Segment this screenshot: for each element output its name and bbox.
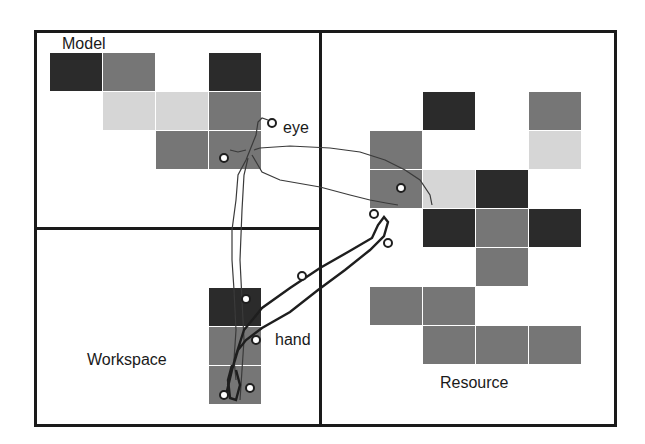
hand-label: hand [275,331,311,349]
resource-label: Resource [440,374,508,392]
marker-icon [397,184,405,192]
trace-overlay [0,0,645,444]
eye-label: eye [283,119,309,137]
marker-icon [370,210,378,218]
marker-icon [384,239,392,247]
marker-icon [252,336,260,344]
eye-trace [230,118,432,400]
marker-icon [268,119,276,127]
model-label: Model [62,35,106,53]
marker-icon [242,295,250,303]
workspace-label: Workspace [87,351,167,369]
hand-trace [226,217,388,400]
marker-icon [298,272,306,280]
marker-icon [220,391,228,399]
marker-icon [246,384,254,392]
marker-icon [220,154,228,162]
